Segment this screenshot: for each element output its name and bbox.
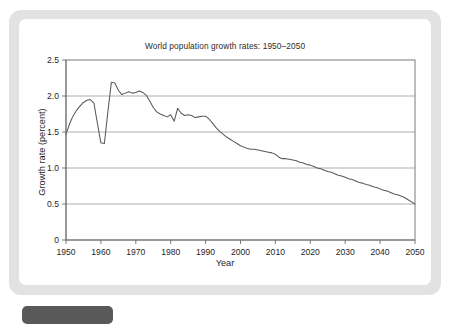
- x-tick-label: 1980: [161, 247, 180, 257]
- y-tick-label: 0: [54, 235, 59, 245]
- line-chart-plot: 00.51.01.52.02.5 19501960197019801990200…: [19, 19, 431, 285]
- y-tick-label: 0.5: [47, 199, 59, 209]
- y-tick-label: 1.5: [47, 127, 59, 137]
- x-tick-label: 2010: [266, 247, 285, 257]
- x-tick-label: 2050: [405, 247, 424, 257]
- x-tick-label: 2000: [231, 247, 250, 257]
- x-axis-label: Year: [19, 258, 431, 268]
- x-tick-label: 2030: [336, 247, 355, 257]
- growth-rate-line: [66, 82, 415, 204]
- y-tick-label: 2.5: [47, 55, 59, 65]
- x-tick-label: 1970: [126, 247, 145, 257]
- y-tick-label: 2.0: [47, 91, 59, 101]
- plot-area-border: [66, 60, 415, 240]
- x-tick-label: 2040: [371, 247, 390, 257]
- y-tick-label: 1.0: [47, 163, 59, 173]
- x-tick-label: 1960: [91, 247, 110, 257]
- chart-container: World population growth rates: 1950–2050…: [19, 19, 431, 285]
- y-axis-label: Growth rate (percent): [37, 82, 47, 222]
- x-axis-ticks: 1950196019701980199020002010202020302040…: [56, 240, 424, 257]
- x-tick-label: 2020: [301, 247, 320, 257]
- gridlines: [66, 96, 415, 204]
- axis-lines: [66, 60, 415, 240]
- chart-title: World population growth rates: 1950–2050: [19, 41, 431, 51]
- y-axis-ticks: 00.51.01.52.02.5: [47, 55, 66, 245]
- bottom-tab-button[interactable]: [22, 306, 113, 324]
- x-tick-label: 1950: [56, 247, 75, 257]
- x-tick-label: 1990: [196, 247, 215, 257]
